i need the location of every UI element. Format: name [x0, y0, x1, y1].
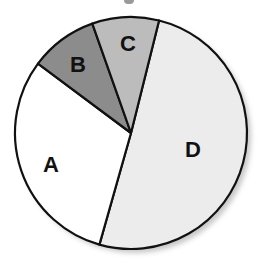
slice-label-c: C [120, 31, 136, 56]
slice-label-d: D [185, 137, 201, 162]
pie-chart: DABC [0, 0, 260, 265]
slice-label-b: B [70, 52, 86, 77]
slice-label-a: A [43, 152, 59, 177]
